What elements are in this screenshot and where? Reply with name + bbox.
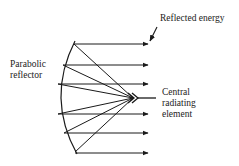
- antenna-diagram: [0, 0, 239, 166]
- parabolic-reflector-label-line2: reflector: [10, 70, 42, 81]
- reflected-energy-pointer: [150, 27, 157, 41]
- reflected-energy-label: Reflected energy: [160, 13, 224, 24]
- central-element-label-line1: Central: [162, 87, 190, 98]
- central-element-label-line3: element: [162, 109, 192, 120]
- parabolic-reflector: [61, 41, 77, 154]
- parabolic-reflector-label-line1: Parabolic: [10, 59, 46, 70]
- incident-rays: [58, 44, 133, 152]
- reflected-energy-rays: [58, 44, 148, 153]
- central-element-label-line2: radiating: [162, 98, 196, 109]
